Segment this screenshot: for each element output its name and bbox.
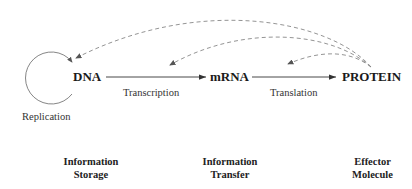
role-information-transfer: Information Transfer xyxy=(195,155,265,181)
node-mrna: mRNA xyxy=(210,69,249,85)
label-transcription: Transcription xyxy=(123,87,179,98)
role-storage-line2: Storage xyxy=(56,168,126,181)
role-effector-molecule: Effector Molecule xyxy=(345,155,400,181)
label-translation: Translation xyxy=(270,87,317,98)
node-protein: PROTEIN xyxy=(342,69,401,85)
protein-to-mrna-region-dashed-arrow xyxy=(170,37,371,67)
node-dna: DNA xyxy=(73,69,101,85)
role-information-storage: Information Storage xyxy=(56,155,126,181)
role-transfer-line1: Information xyxy=(195,155,265,168)
role-storage-line1: Information xyxy=(56,155,126,168)
label-replication: Replication xyxy=(22,111,70,122)
replication-loop-arrow xyxy=(26,52,72,104)
role-transfer-line2: Transfer xyxy=(195,168,265,181)
role-effector-line2: Molecule xyxy=(345,168,400,181)
role-effector-line1: Effector xyxy=(345,155,400,168)
